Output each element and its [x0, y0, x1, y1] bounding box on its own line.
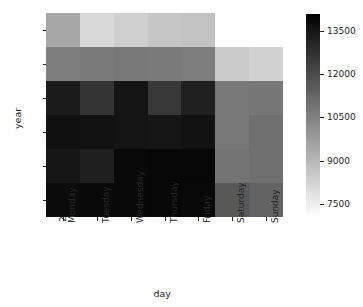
- colorbar-tick-mark: [320, 204, 324, 205]
- heatmap-cell: [215, 13, 249, 47]
- heatmap-cell-grid: [46, 13, 283, 217]
- x-tick-mark: [97, 217, 98, 221]
- heatmap-cell: [181, 13, 215, 47]
- colorbar-tick-mark: [320, 31, 324, 32]
- heatmap-cell: [148, 115, 182, 149]
- heatmap-cell: [114, 81, 148, 115]
- heatmap-plot-area: [46, 13, 283, 217]
- heatmap-cell: [249, 47, 283, 81]
- x-tick-label: Monday: [67, 187, 77, 223]
- heatmap-cell: [148, 13, 182, 47]
- colorbar-tick-mark: [320, 117, 324, 118]
- heatmap-cell: [114, 115, 148, 149]
- x-tick-mark: [232, 217, 233, 221]
- heatmap-cell: [215, 81, 249, 115]
- colorbar: [306, 14, 320, 218]
- x-tick-label: Sunday: [270, 189, 280, 223]
- heatmap-cell: [148, 81, 182, 115]
- heatmap-cell: [80, 13, 114, 47]
- x-tick-mark: [165, 217, 166, 221]
- heatmap-cell: [181, 115, 215, 149]
- x-tick-mark: [198, 217, 199, 221]
- y-axis-label: year: [12, 108, 23, 129]
- x-tick-mark: [63, 217, 64, 221]
- heatmap-cell: [46, 13, 80, 47]
- heatmap-cell: [215, 47, 249, 81]
- colorbar-tick-label: 12000: [327, 69, 356, 79]
- heatmap-cell: [249, 149, 283, 183]
- x-tick-mark: [131, 217, 132, 221]
- heatmap-cell: [148, 149, 182, 183]
- colorbar-tick-mark: [320, 161, 324, 162]
- x-tick-mark: [266, 217, 267, 221]
- colorbar-gradient: [306, 14, 320, 218]
- heatmap-cell: [249, 81, 283, 115]
- heatmap-cell: [46, 149, 80, 183]
- heatmap-cell: [46, 81, 80, 115]
- colorbar-tick-mark: [320, 74, 324, 75]
- heatmap-cell: [80, 149, 114, 183]
- colorbar-tick-label: 13500: [327, 26, 356, 36]
- colorbar-tick-label: 7500: [327, 199, 350, 209]
- heatmap-figure: year 201220132014201520162017 MondayTues…: [0, 0, 363, 307]
- x-tick-label: Wednesday: [135, 171, 145, 223]
- colorbar-tick-label: 10500: [327, 112, 356, 122]
- heatmap-cell: [249, 13, 283, 47]
- heatmap-cell: [148, 47, 182, 81]
- heatmap-cell: [215, 115, 249, 149]
- heatmap-cell: [249, 115, 283, 149]
- heatmap-cell: [80, 81, 114, 115]
- x-tick-label: Friday: [202, 196, 212, 223]
- colorbar-tick-label: 9000: [327, 156, 350, 166]
- heatmap-cell: [80, 47, 114, 81]
- heatmap-cell: [181, 81, 215, 115]
- x-tick-label: Saturday: [236, 182, 246, 223]
- heatmap-cell: [181, 47, 215, 81]
- heatmap-cell: [46, 115, 80, 149]
- heatmap-cell: [215, 149, 249, 183]
- heatmap-cell: [46, 47, 80, 81]
- heatmap-cell: [80, 115, 114, 149]
- heatmap-cell: [114, 13, 148, 47]
- x-axis-label: day: [154, 288, 171, 299]
- x-tick-label: Thursday: [169, 181, 179, 223]
- heatmap-cell: [181, 149, 215, 183]
- heatmap-cell: [114, 47, 148, 81]
- x-tick-label: Tuesday: [101, 186, 111, 223]
